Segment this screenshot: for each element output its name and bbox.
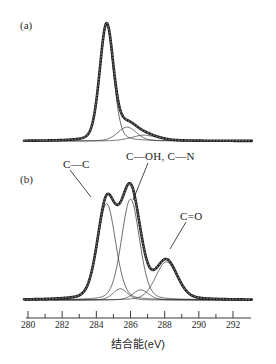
x-axis (26, 311, 251, 318)
panel-a-envelope (24, 23, 252, 141)
panel-b-envelope-markers (24, 183, 252, 299)
x-axis-ticks (28, 311, 233, 318)
x-axis-tick-label: 284 (89, 320, 103, 330)
panel-a-plot (24, 23, 252, 141)
leader-line-c-c (70, 170, 91, 197)
x-axis-tick-label: 280 (21, 320, 35, 330)
x-axis-tick-label: 288 (158, 320, 172, 330)
panel-b-component-c-o (24, 262, 252, 300)
x-axis-tick-label: 290 (192, 320, 206, 330)
panel-b-envelope (24, 183, 252, 299)
panel-b-tag: (b) (20, 173, 33, 185)
leader-line-c-o (170, 222, 186, 249)
peak-label-c-o: C=O (180, 210, 202, 222)
annotation-leader-lines (70, 163, 186, 249)
leader-line-c-oh-c-n (133, 163, 148, 200)
panel-a-component-1 (24, 25, 252, 141)
panel-a-tag: (a) (20, 19, 32, 31)
peak-label-c-oh-c-n: C—OH, C—N (126, 150, 195, 162)
x-axis-tick-label: 286 (123, 320, 137, 330)
panel-b-plot (24, 183, 252, 300)
peak-label-c-c: C—C (63, 158, 90, 170)
panel-a-envelope-markers (24, 23, 252, 141)
x-axis-tick-label: 282 (55, 320, 69, 330)
x-axis-title: 结合能(eV) (111, 335, 165, 351)
spectra-plot (0, 0, 276, 364)
x-axis-tick-label: 292 (226, 320, 240, 330)
xps-figure: (a) (b) C—C C—OH, C—N C=O 28028228428628… (0, 0, 276, 364)
